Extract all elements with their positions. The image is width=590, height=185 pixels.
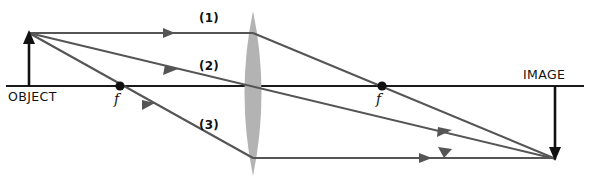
- ray-2-label: (2): [199, 59, 219, 73]
- ray-2-path: [29, 33, 556, 159]
- diagram-canvas: OBJECT IMAGE f f (1) (2) (3): [0, 0, 590, 185]
- ray-1-arrowhead-incident: [163, 28, 175, 38]
- ray-3-label: (3): [199, 118, 219, 132]
- ray-2-undeviated-segment: [29, 33, 556, 159]
- ray-1-refracted-segment: [253, 33, 556, 159]
- focal-point-right-dot: [377, 81, 386, 90]
- ray-1-label: (1): [199, 11, 219, 25]
- focal-point-left-dot: [115, 81, 124, 90]
- ray-3-arrowhead-refracted: [419, 153, 432, 163]
- ray-3-incident-segment: [29, 33, 253, 158]
- object-label: OBJECT: [8, 89, 57, 104]
- image-arrow: [549, 86, 561, 161]
- ray-1-arrowhead-refracted: [438, 147, 452, 158]
- focal-label-left: f: [113, 91, 122, 107]
- focal-label-right: f: [375, 91, 384, 107]
- image-label: IMAGE: [523, 67, 565, 82]
- object-arrow: [23, 30, 35, 86]
- ray-2-arrowhead-refracted: [437, 127, 452, 137]
- lens-ray-diagram: OBJECT IMAGE f f (1) (2) (3): [0, 0, 590, 185]
